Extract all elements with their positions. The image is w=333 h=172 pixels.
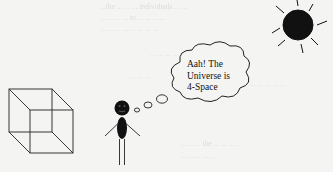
thought-line-3: 4-Space [187,82,247,94]
figure-head [115,101,130,116]
thought-line-1: Aah! The [187,59,247,71]
wireframe-cube [9,89,73,153]
thought-line-2: Universe is [187,71,247,83]
figure-body [117,117,127,139]
sun-icon [272,0,327,53]
figure-right-arm [127,124,141,136]
thought-connector [134,95,167,112]
diagram-canvas [0,0,333,172]
thought-bubble-text: Aah! The Universe is 4-Space [187,59,247,94]
figure-left-arm [105,124,118,136]
